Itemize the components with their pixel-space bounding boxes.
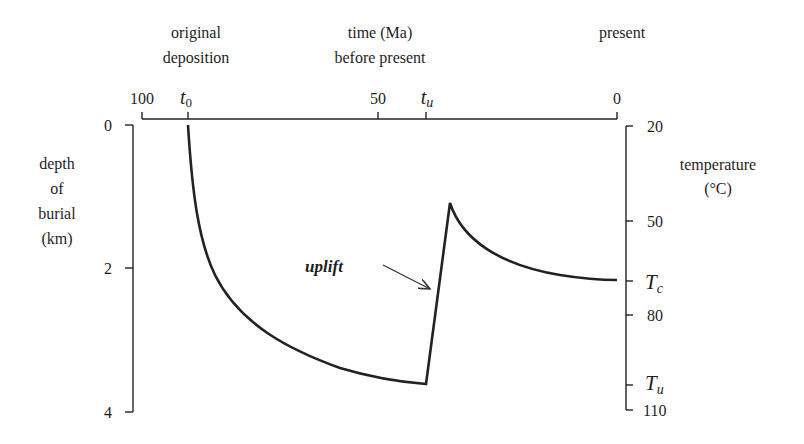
temperature-axis-title-line1: temperature: [680, 156, 756, 174]
time-axis-title-line1: time (Ma): [348, 24, 412, 42]
depth-tick-4: 4: [104, 404, 112, 421]
depth-axis-title-line2: of: [50, 180, 64, 197]
depth-axis: [125, 125, 133, 412]
time-tick-0: 0: [613, 90, 621, 107]
time-tick-tu: tu: [421, 86, 434, 110]
depth-tick-2: 2: [104, 260, 112, 277]
depth-axis-title-line4: (km): [41, 230, 72, 248]
time-tick-100: 100: [130, 90, 154, 107]
uplift-label: uplift: [305, 257, 344, 276]
temperature-axis: [626, 126, 633, 410]
uplift-arrow: [383, 265, 430, 289]
temperature-axis-title-line2: (°C): [704, 180, 732, 198]
time-tick-50: 50: [370, 90, 386, 107]
burial-history-curve: [188, 125, 617, 384]
original-deposition-label-line1: original: [171, 24, 221, 42]
time-axis-title-line2: before present: [334, 49, 426, 67]
temp-tick-50: 50: [647, 213, 663, 230]
temp-tick-110: 110: [643, 402, 666, 419]
present-label: present: [599, 24, 646, 42]
temp-tick-tu: Tu: [645, 371, 664, 397]
depth-axis-title-line3: burial: [38, 205, 76, 222]
temp-tick-80: 80: [647, 307, 663, 324]
depth-tick-0: 0: [104, 117, 112, 134]
burial-history-chart: original deposition time (Ma) before pre…: [0, 0, 804, 444]
original-deposition-label-line2: deposition: [163, 49, 230, 67]
time-tick-t0: t0: [180, 86, 192, 110]
temp-tick-tc: Tc: [645, 270, 664, 296]
time-axis: [142, 112, 617, 119]
temp-tick-20: 20: [647, 118, 663, 135]
depth-axis-title-line1: depth: [39, 155, 75, 173]
